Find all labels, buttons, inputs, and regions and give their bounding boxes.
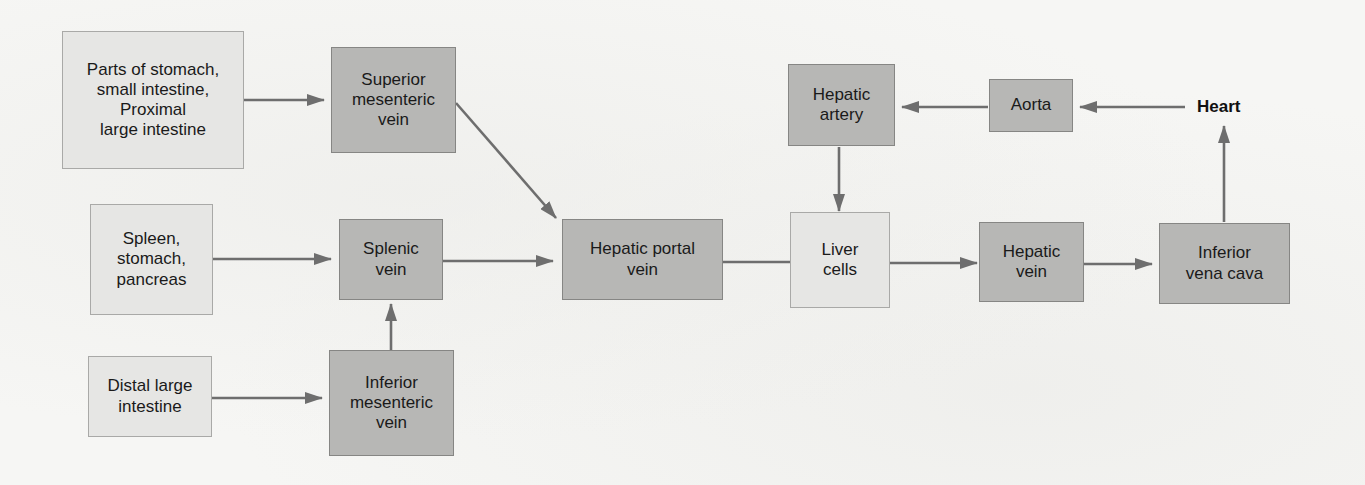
node-superior-mesenteric-vein: Superior mesenteric vein (331, 47, 456, 153)
node-distal-large-intestine: Distal large intestine (88, 356, 212, 437)
node-hepatic-vein: Hepatic vein (979, 222, 1084, 302)
node-inferior-vena-cava: Inferior vena cava (1159, 223, 1290, 304)
node-spleen-stomach-pancreas: Spleen, stomach, pancreas (90, 204, 213, 315)
node-aorta: Aorta (989, 79, 1073, 132)
node-label: Spleen, stomach, pancreas (117, 229, 187, 289)
node-parts-of-stomach: Parts of stomach, small intestine, Proxi… (62, 31, 244, 169)
node-label: Aorta (1011, 95, 1052, 115)
node-label: Inferior vena cava (1186, 243, 1264, 283)
node-label: Superior mesenteric vein (352, 70, 435, 130)
node-label: Hepatic artery (813, 85, 871, 125)
node-liver-cells: Liver cells (790, 212, 890, 308)
node-label: Inferior mesenteric vein (350, 373, 433, 433)
node-label: Splenic vein (363, 239, 419, 279)
node-inferior-mesenteric-vein: Inferior mesenteric vein (329, 350, 454, 456)
node-label: Liver cells (822, 240, 859, 280)
node-label: Distal large intestine (107, 376, 192, 416)
node-hepatic-artery: Hepatic artery (788, 64, 895, 146)
diagram-canvas: Parts of stomach, small intestine, Proxi… (0, 0, 1365, 485)
arrow-superior-mesenteric-to-portal (456, 103, 556, 218)
node-label: Hepatic vein (1003, 242, 1061, 282)
node-label: Heart (1197, 97, 1240, 116)
node-hepatic-portal-vein: Hepatic portal vein (562, 219, 723, 300)
node-splenic-vein: Splenic vein (339, 219, 443, 300)
node-label: Hepatic portal vein (590, 239, 695, 279)
node-label: Parts of stomach, small intestine, Proxi… (87, 60, 219, 140)
node-heart: Heart (1197, 97, 1240, 117)
